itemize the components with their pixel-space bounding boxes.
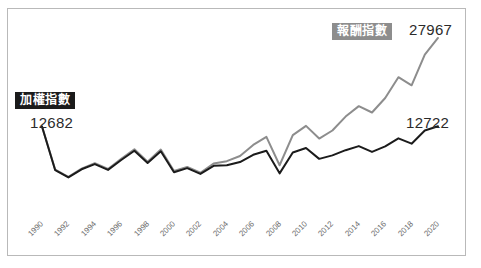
series-line-return-index	[42, 38, 438, 177]
series-line-weighted-index	[42, 126, 438, 177]
legend-badge-return-index: 報酬指數	[332, 23, 392, 40]
value-label-weighted-start: 12682	[30, 114, 73, 131]
value-label-return-end: 27967	[409, 21, 452, 38]
line-chart-plot	[0, 0, 481, 268]
value-label-weighted-end: 12722	[406, 114, 449, 131]
chart-container: 加權指數 12682 報酬指數 27967 12722 199019921994…	[0, 0, 481, 268]
legend-badge-weighted-index: 加權指數	[15, 92, 75, 109]
